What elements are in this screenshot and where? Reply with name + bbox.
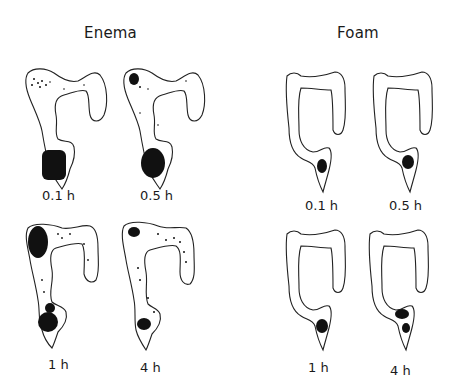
foam-label-4h: 4 h [390,363,411,378]
foam-title: Foam [337,24,379,42]
foam-label-1h: 1 h [308,360,329,375]
enema-label-0-5h: 0.5 h [140,188,173,203]
enema-label-4h: 4 h [140,360,161,375]
foam-colon-0-1h [283,70,363,195]
enema-title: Enema [84,24,137,42]
foam-label-0-1h: 0.1 h [305,198,338,213]
foam-colon-0-5h [370,70,450,195]
enema-colon-4h [118,218,208,353]
enema-colon-0-1h [20,65,110,190]
foam-label-0-5h: 0.5 h [389,198,422,213]
foam-colon-4h [366,228,446,353]
enema-label-0-1h: 0.1 h [42,188,75,203]
enema-label-1h: 1 h [48,357,69,372]
foam-colon-1h [283,228,363,353]
enema-colon-1h [22,220,112,350]
enema-colon-0-5h [118,65,208,190]
